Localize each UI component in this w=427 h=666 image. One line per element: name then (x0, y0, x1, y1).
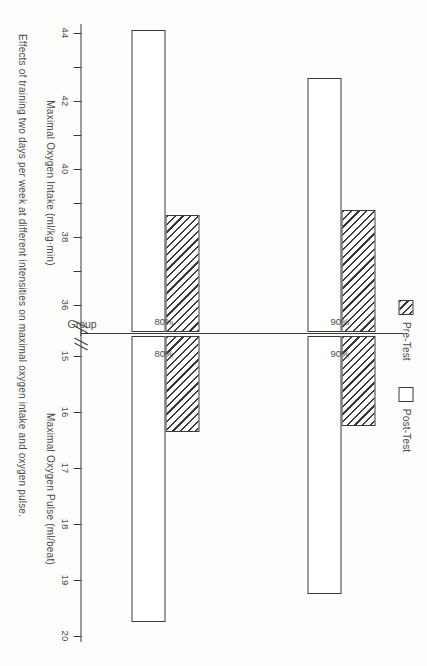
legend-swatch-post-test-icon (398, 387, 413, 402)
axis-title-intake: Maximal Oxygen Intake (ml/kg·min) (44, 30, 55, 336)
bar-pulse-90-post (307, 336, 341, 594)
axis-tick-label: 44 (59, 28, 70, 39)
group-label-intake-80: 80% (154, 316, 173, 327)
axis-break-icon (73, 338, 88, 352)
axis-tick (73, 580, 81, 581)
figure-stage: Pre-Test Post-Test (0, 0, 427, 666)
axis-tick (73, 33, 81, 34)
value-axis-pulse: 15 16 17 18 19 20 (80, 330, 81, 642)
value-axis-intake: 44 42 40 38 36 (80, 24, 81, 336)
category-axis-spine (81, 333, 403, 334)
bar-intake-90-post (307, 78, 341, 332)
legend-label-post-test: Post-Test (400, 409, 411, 452)
axis-tick (73, 237, 81, 238)
axis-tick (73, 524, 81, 525)
bar-intake-90-pre (341, 210, 375, 332)
figure-caption: Effects of training two days per week at… (16, 34, 27, 634)
axis-tick (73, 305, 81, 306)
axis-tick-label: 15 (59, 351, 70, 362)
axis-tick (73, 101, 81, 102)
axis-tick-label: 36 (59, 300, 70, 311)
group-label-intake-90: 90% (330, 316, 349, 327)
axis-tick-label: 20 (59, 631, 70, 642)
axis-title-pulse: Maximal Oxygen Pulse (ml/beat) (44, 336, 55, 642)
bar-chart-figure: Pre-Test Post-Test (0, 0, 427, 666)
legend-item-pre-test: Pre-Test (398, 300, 413, 361)
axis-title-group: Group (67, 318, 96, 330)
axis-tick (73, 636, 81, 637)
legend-swatch-pre-test-icon (398, 300, 413, 315)
panel-maximal-oxygen-pulse (89, 336, 389, 632)
group-label-pulse-90: 90% (330, 348, 349, 359)
figure-page: Pre-Test Post-Test (0, 0, 427, 666)
legend-item-post-test: Post-Test (398, 387, 413, 452)
axis-tick-label: 17 (59, 463, 70, 474)
axis-tick (73, 271, 81, 272)
group-label-pulse-80: 80% (154, 348, 173, 359)
axis-tick (73, 203, 81, 204)
bar-intake-80-post (131, 30, 165, 332)
legend: Pre-Test Post-Test (398, 300, 413, 452)
axis-tick-label: 40 (59, 164, 70, 175)
axis-tick (73, 468, 81, 469)
axis-tick-label: 16 (59, 407, 70, 418)
axis-tick (73, 356, 81, 357)
bar-intake-80-pre (165, 215, 199, 332)
axis-tick (73, 135, 81, 136)
legend-label-pre-test: Pre-Test (400, 322, 411, 361)
axis-tick-label: 42 (59, 96, 70, 107)
axis-tick-label: 38 (59, 232, 70, 243)
axis-tick (73, 169, 81, 170)
panel-maximal-oxygen-intake (89, 36, 389, 332)
axis-tick-label: 19 (59, 575, 70, 586)
axis-tick (73, 67, 81, 68)
axis-tick-label: 18 (59, 519, 70, 530)
bar-pulse-80-post (131, 336, 165, 622)
axis-tick (73, 412, 81, 413)
